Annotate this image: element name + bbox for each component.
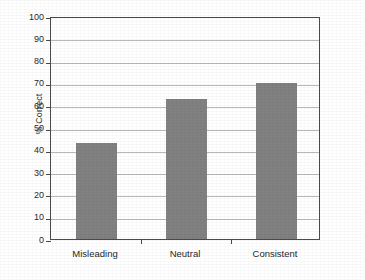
y-axis-tick [46,130,51,131]
x-axis-category-label: Misleading [72,248,117,259]
bar [166,99,207,239]
gridline [51,40,319,41]
y-axis-tick [46,40,51,41]
gridline [51,63,319,64]
y-axis-tick-label: 50 [14,124,44,133]
x-axis-tick [231,239,232,244]
y-axis-tick-label: 20 [14,191,44,200]
bar-chart-figure: % Correct 0102030405060708090100 Mislead… [0,0,365,280]
y-axis-tick [46,18,51,19]
y-axis-tick [46,241,51,242]
y-axis-tick-labels: 0102030405060708090100 [12,17,44,240]
bar [256,83,297,239]
y-axis-tick-label: 80 [14,57,44,66]
y-axis-tick-label: 90 [14,35,44,44]
plot-area [50,17,320,240]
y-axis-tick [46,174,51,175]
y-axis-tick [46,63,51,64]
y-axis-tick [46,196,51,197]
x-axis-category-label: Consistent [253,248,298,259]
y-axis-tick-label: 10 [14,213,44,222]
y-axis-tick-label: 0 [14,236,44,245]
y-axis-tick [46,152,51,153]
y-axis-tick-label: 60 [14,102,44,111]
y-axis-tick [46,219,51,220]
y-axis-tick-label: 30 [14,169,44,178]
y-axis-tick [46,107,51,108]
bar [76,143,117,239]
y-axis-tick-label: 100 [14,13,44,22]
x-axis-category-label: Neutral [170,248,201,259]
x-axis-tick [141,239,142,244]
y-axis-tick [46,85,51,86]
x-axis-category-labels: MisleadingNeutralConsistent [50,248,320,264]
y-axis-tick-label: 70 [14,79,44,88]
y-axis-tick-label: 40 [14,146,44,155]
